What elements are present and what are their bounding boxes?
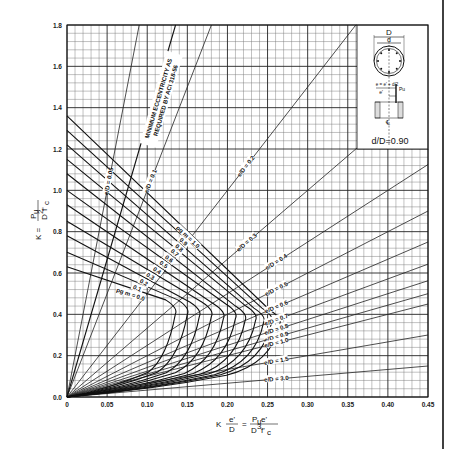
x-tick-label: 0.35 [341, 401, 354, 408]
eccentricity-label: e/D = 0.1 [142, 168, 158, 194]
eccentricity-line [67, 25, 139, 397]
inset-label-centerline: ℄ [385, 119, 390, 125]
x-title-e-tail: e' [261, 415, 267, 424]
x-title-e: e' [229, 415, 235, 424]
x-tick-label: 0.45 [422, 401, 435, 408]
eccentricity-line [67, 281, 428, 397]
rebar-dot-icon [380, 52, 382, 54]
interaction-diagram: Dde = e' + d/2e'Pu℄d/D=0.90 e/D = 0.05e/… [0, 0, 453, 449]
x-tick-label: 0.20 [221, 401, 234, 408]
x-tick-labels: 00.050.100.150.200.250.300.350.400.45 [65, 401, 435, 408]
eccentricity-label: e/D = 0.05 [102, 166, 115, 195]
section-inset: Dde = e' + d/2e'Pu℄d/D=0.90 [357, 25, 428, 149]
y-title-k: K = [34, 227, 43, 240]
y-tick-label: 1.6 [53, 63, 62, 70]
x-tick-label: 0.05 [101, 401, 114, 408]
rebar-dot-icon [396, 52, 398, 54]
y-tick-label: 0.2 [53, 352, 62, 359]
inset-title: d/D=0.90 [372, 136, 409, 146]
y-title-group: K =PuD2f'c [29, 200, 51, 240]
x-tick-label: 0.40 [382, 401, 395, 408]
section-steel-right [398, 102, 403, 118]
inset-frame [357, 25, 428, 149]
eccentricity-label: e/D = 0.3 [235, 231, 259, 253]
inset-label-pu: Pu [399, 86, 405, 92]
y-tick-label: 1.4 [53, 104, 62, 111]
y-title-fc: f' [40, 207, 49, 211]
eccentricity-label-text: e/D = 0.3 [235, 232, 258, 253]
eccentricity-label-text: e/D = 3.0 [264, 375, 290, 383]
inset-label-e-prime: e' [379, 89, 383, 95]
x-tick-label: 0.15 [181, 401, 194, 408]
x-title-fc: f' [261, 426, 265, 435]
y-tick-label: 0.6 [53, 270, 62, 277]
inset-label-d: d [387, 36, 391, 43]
eccentricity-label-text: e/D = 0.05 [103, 166, 114, 195]
x-tick-label: 0.10 [141, 401, 154, 408]
x-title-fc-sub: c [267, 428, 271, 437]
y-title-fc-sub: c [42, 201, 51, 205]
y-tick-label: 0.8 [53, 228, 62, 235]
inset-label-e: e = e' + d/2 [376, 82, 399, 87]
y-tick-label: 1.0 [53, 187, 62, 194]
y-tick-label: 0.0 [53, 394, 62, 401]
x-tick-label: 0.25 [261, 401, 274, 408]
eccentricity-label-text: e/D = 0.1 [143, 168, 158, 194]
rebar-dot-icon [377, 60, 379, 62]
y-tick-labels: 0.00.20.40.60.81.01.21.41.61.8 [53, 22, 62, 401]
y-tick-label: 0.4 [53, 311, 62, 318]
x-title-eq: = [242, 420, 247, 429]
eccentricity-line [67, 264, 428, 397]
y-axis-title: K =PuD2f'c [29, 200, 51, 240]
rebar-dot-icon [399, 60, 401, 62]
rebar-dot-icon [380, 68, 382, 70]
rebar-dot-icon [396, 68, 398, 70]
y-tick-label: 1.8 [53, 22, 62, 29]
y-tick-label: 1.2 [53, 146, 62, 153]
x-tick-label: 0 [65, 401, 69, 408]
eccentricity-label-text: e/D = 0.2 [236, 154, 256, 178]
x-tick-label: 0.30 [301, 401, 314, 408]
section-steel-left [375, 102, 380, 118]
x-title-d: D [229, 425, 235, 434]
x-title-k: K [216, 420, 222, 429]
x-axis-title: Ke'D=Pue'D3f'c [216, 415, 278, 437]
